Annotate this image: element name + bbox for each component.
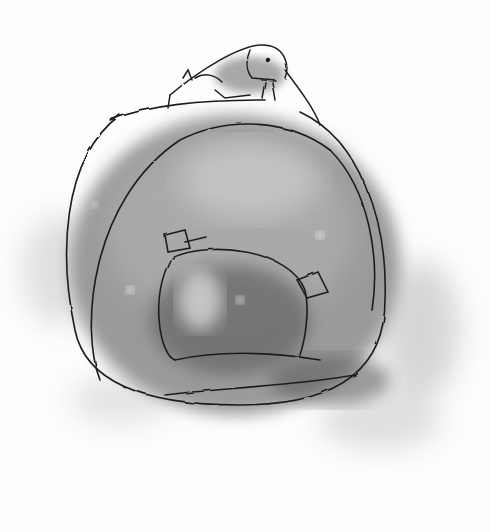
sketch-canvas: charcoal sketch <box>0 0 491 532</box>
charcoal-sketch <box>0 0 491 532</box>
